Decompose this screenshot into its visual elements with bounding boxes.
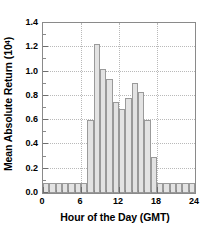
x-tick-minor [151, 190, 152, 194]
x-tick-minor [49, 190, 50, 194]
x-tick-minor [144, 190, 145, 194]
y-tick-major [43, 119, 48, 120]
y-axis-title-text: Mean Absolute Return (10 [2, 44, 14, 171]
y-tick-major [43, 143, 48, 144]
x-tick-label: 0 [39, 196, 44, 206]
x-tick-major [81, 187, 82, 193]
x-axis-tick-labels: 06121824 [42, 196, 196, 208]
y-tick-minor [43, 58, 46, 59]
y-tick-label: 0.2 [25, 163, 38, 173]
x-tick-minor [189, 190, 190, 194]
y-tick-label: 1.4 [25, 17, 38, 27]
x-tick-major [195, 187, 196, 193]
y-tick-major [43, 168, 48, 169]
x-tick-minor [113, 190, 114, 194]
y-tick-minor [43, 156, 46, 157]
x-tick-minor [62, 190, 63, 194]
chart-figure: Mean Absolute Return (104) 0.00.20.40.60… [0, 0, 206, 241]
x-tick-minor [75, 190, 76, 194]
y-tick-label: 0.6 [25, 114, 38, 124]
x-tick-minor [170, 190, 171, 194]
x-tick-minor [94, 190, 95, 194]
x-tick-label: 12 [113, 196, 123, 206]
y-axis-title: Mean Absolute Return (104) [1, 7, 15, 201]
x-tick-label: 24 [189, 196, 199, 206]
y-tick-minor [43, 107, 46, 108]
x-tick-minor [100, 190, 101, 194]
y-axis-title-tail: ) [2, 37, 14, 40]
y-tick-major [43, 95, 48, 96]
x-tick-major [157, 187, 158, 193]
y-tick-minor [43, 180, 46, 181]
x-tick-minor [163, 190, 164, 194]
x-tick-minor [125, 190, 126, 194]
y-tick-label: 0.0 [25, 187, 38, 197]
gridline-vertical [81, 23, 82, 193]
y-tick-major [43, 71, 48, 72]
y-tick-major [43, 192, 48, 193]
y-tick-label: 0.8 [25, 90, 38, 100]
x-tick-minor [182, 190, 183, 194]
x-tick-minor [106, 190, 107, 194]
y-tick-label: 1.2 [25, 41, 38, 51]
x-tick-minor [176, 190, 177, 194]
plot-area [42, 22, 196, 194]
x-axis-title: Hour of the Day (GMT) [30, 211, 200, 223]
x-tick-minor [87, 190, 88, 194]
x-tick-minor [56, 190, 57, 194]
x-tick-minor [132, 190, 133, 194]
y-tick-label: 1.0 [25, 66, 38, 76]
x-tick-label: 6 [77, 196, 82, 206]
x-tick-label: 18 [151, 196, 161, 206]
y-tick-major [43, 22, 48, 23]
gridline-vertical [157, 23, 158, 193]
x-tick-minor [68, 190, 69, 194]
y-tick-major [43, 46, 48, 47]
y-tick-minor [43, 83, 46, 84]
y-axis-tick-labels: 0.00.20.40.60.81.01.21.4 [16, 22, 38, 194]
y-tick-label: 0.4 [25, 138, 38, 148]
y-tick-minor [43, 34, 46, 35]
x-tick-major [119, 187, 120, 193]
y-tick-minor [43, 131, 46, 132]
x-tick-minor [138, 190, 139, 194]
